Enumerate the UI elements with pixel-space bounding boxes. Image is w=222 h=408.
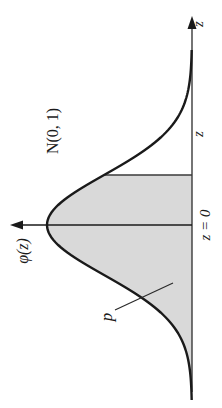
mean-label: z = 0 — [197, 209, 213, 241]
z-axis-label: z — [190, 21, 206, 28]
cutoff-label: z — [190, 131, 206, 138]
density-label: φ(z) — [14, 238, 32, 264]
normal-distribution-figure: z z z = 0 N(0, 1) φ(z) p — [0, 0, 222, 408]
distribution-label: N(0, 1) — [44, 108, 62, 154]
phi-axis-arrow-icon — [10, 221, 23, 230]
shaded-area-p — [47, 175, 192, 400]
area-label: p — [97, 313, 116, 323]
